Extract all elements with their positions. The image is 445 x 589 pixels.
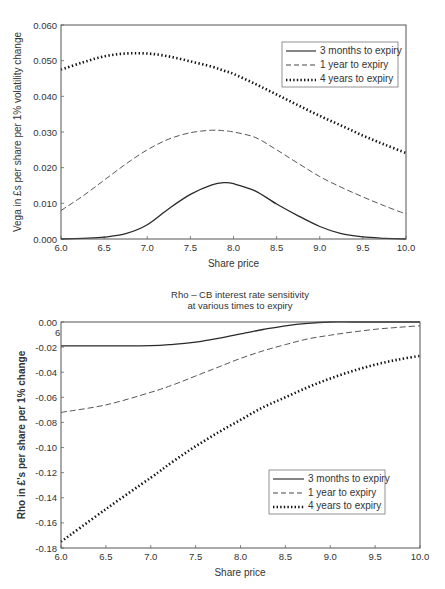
x-tick-label: 7.5: [184, 242, 197, 253]
vega-legend: 3 months to expiry 1 year to expiry 4 ye…: [282, 42, 402, 87]
vega-legend-label-3m: 3 months to expiry: [320, 45, 402, 56]
y-tick-label: 0.030: [33, 127, 57, 138]
y-tick-label: 0.010: [33, 198, 57, 209]
rho-ylabel: Rho in £'s per share per 1% change: [16, 350, 27, 519]
vega-ylabel: Vega in £s per share per 1% volatility c…: [12, 32, 23, 233]
vega-xlabel: Share price: [208, 258, 260, 269]
vega-y-axis-title: Vega in £s per share per 1% volatility c…: [12, 32, 23, 233]
y-tick-label: -0.06: [35, 392, 57, 403]
figure: Vega in £s per share per 1% volatility c…: [0, 0, 445, 589]
x-tick-label: 10.0: [397, 242, 416, 253]
x-tick-label: 10.0: [411, 551, 430, 562]
x-tick-label: 6.0: [54, 242, 67, 253]
y-tick-label: -0.08: [35, 417, 57, 428]
series-line-dashed: [61, 130, 406, 214]
rho-legend-label-4y: 4 years to expiry: [308, 500, 381, 511]
x-tick-label: 7.0: [144, 551, 157, 562]
x-tick-label: 6.5: [98, 242, 111, 253]
rho-chart: Rho – CB interest rate sensitivity at va…: [16, 289, 429, 578]
y-tick-label: 0.040: [33, 91, 57, 102]
x-tick-label: 8.5: [279, 551, 292, 562]
x-tick-label: 7.5: [189, 551, 202, 562]
x-tick-label: 8.0: [227, 242, 240, 253]
vega-chart: Vega in £s per share per 1% volatility c…: [12, 20, 415, 270]
y-tick-label: 0.050: [33, 55, 57, 66]
rho-subtitle: at various times to expiry: [187, 300, 292, 311]
x-tick-label: 8.5: [270, 242, 283, 253]
rho-title: Rho – CB interest rate sensitivity: [171, 289, 309, 300]
y-tick-label: 0.060: [33, 20, 57, 31]
y-tick-label: -0.12: [35, 467, 57, 478]
y-tick-label: 0.020: [33, 162, 57, 173]
y-tick-label: -0.02: [35, 342, 57, 353]
series-line-dashed: [61, 326, 420, 413]
x-tick-label: 9.0: [324, 551, 337, 562]
y-tick-label: -0.14: [35, 492, 57, 503]
y-tick-label: 0.00: [39, 317, 58, 328]
y-tick-label: -0.04: [35, 367, 57, 378]
y-tick-label: -0.16: [35, 517, 57, 528]
x-tick-label: 9.5: [356, 242, 369, 253]
rho-y-ticks: 0.00-0.02-0.04-0.06-0.08-0.10-0.12-0.14-…: [35, 317, 64, 554]
x-tick-label: 9.5: [369, 551, 382, 562]
x-tick-label: 6.0: [54, 551, 67, 562]
vega-legend-label-1y: 1 year to expiry: [320, 59, 388, 70]
rho-stray-label: 6: [55, 327, 60, 338]
series-line-solid: [61, 322, 420, 346]
rho-legend-label-1y: 1 year to expiry: [308, 487, 376, 498]
series-line-solid: [61, 183, 406, 239]
x-tick-label: 7.0: [141, 242, 154, 253]
rho-xlabel: Share price: [214, 567, 266, 578]
y-tick-label: -0.10: [35, 442, 57, 453]
x-tick-label: 8.0: [234, 551, 247, 562]
vega-y-ticks: 0.0000.0100.0200.0300.0400.0500.060: [33, 20, 64, 245]
rho-legend-label-3m: 3 months to expiry: [308, 473, 390, 484]
x-tick-label: 9.0: [313, 242, 326, 253]
vega-legend-label-4y: 4 years to expiry: [320, 73, 393, 84]
rho-legend: 3 months to expiry 1 year to expiry 4 ye…: [269, 470, 390, 514]
x-tick-label: 6.5: [99, 551, 112, 562]
